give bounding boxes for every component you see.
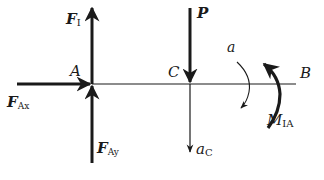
label-C: C	[168, 63, 180, 81]
label-FAx: FAx	[6, 93, 29, 111]
label-MIA: MIA	[266, 111, 294, 129]
label-B: B	[299, 64, 311, 82]
free-body-diagram: FI A FAx FAy P C a B MIA aC	[0, 0, 324, 180]
label-alpha: a	[227, 39, 235, 55]
label-P: P	[196, 4, 209, 22]
label-FI: FI	[65, 10, 81, 28]
label-A: A	[68, 62, 81, 80]
label-aC: aC	[196, 140, 213, 158]
label-FAy: FAy	[96, 139, 120, 157]
angular-acceleration-arrow	[237, 62, 250, 108]
